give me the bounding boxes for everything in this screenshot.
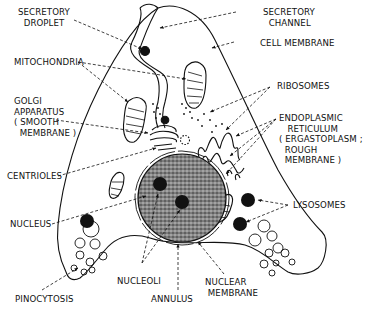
label-pinocytosis: PINOCYTOSIS (15, 294, 74, 305)
label-ribosomes: RIBOSOMES (277, 81, 329, 92)
label-centrioles: CENTRIOLES (7, 171, 62, 182)
mitochondrion-3 (109, 172, 124, 198)
mitochondrion-2 (123, 98, 146, 143)
label-golgi-apparatus: GOLGI APPARATUS ( SMOOTH MEMBRANE ) (14, 96, 76, 138)
mitochondrion-1 (184, 62, 206, 108)
label-mitochondria: MITOCHONDRIA (14, 57, 84, 68)
label-endoplasmic-reticulum: ENDOPLASMIC RETICULUM ( ERGASTOPLASM ; R… (279, 113, 363, 166)
label-nucleus: NUCLEUS (10, 219, 51, 230)
label-nucleoli: NUCLEOLI (117, 276, 161, 287)
label-nuclear-membrane: NUCLEAR MEMBRANE (205, 277, 258, 298)
label-annulus: ANNULUS (151, 294, 193, 305)
label-cell-membrane: CELL MEMBRANE (260, 38, 335, 49)
label-secretory-droplet: SECRETORY DROPLET (18, 7, 70, 28)
label-secretory-channel: SECRETORY CHANNEL (263, 7, 315, 28)
cell-diagram: SECRETORY DROPLET SECRETORY CHANNEL CELL… (0, 0, 370, 309)
label-lysosomes: LYSOSOMES (293, 200, 346, 211)
